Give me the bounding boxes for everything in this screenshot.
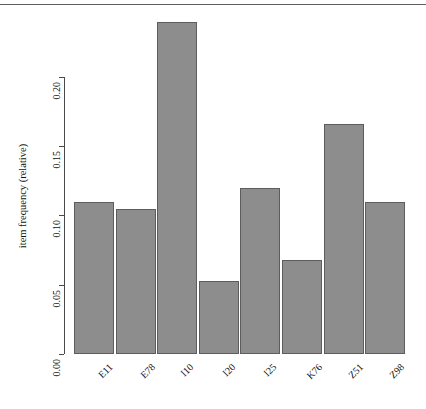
x-tick-label-E78: E78 [138,362,156,380]
figure-canvas: 0.00 0.05 0.10 0.15 0.20 item frequency … [0,0,426,409]
x-tick-label-K76: K76 [305,362,324,381]
x-tick-label-I25: I25 [262,362,279,379]
x-tick-label-I10: I10 [179,362,196,379]
plot-area: 0.00 0.05 0.10 0.15 0.20 item frequency … [0,0,426,409]
x-tick-label-E11: E11 [97,362,115,380]
x-tick-label-Z98: Z98 [388,362,406,380]
x-tick-label-I20: I20 [221,362,238,379]
x-axis-tick-labels: E11E78I10I20I25K76Z51Z98 [0,0,426,409]
x-tick-label-Z51: Z51 [346,362,364,380]
